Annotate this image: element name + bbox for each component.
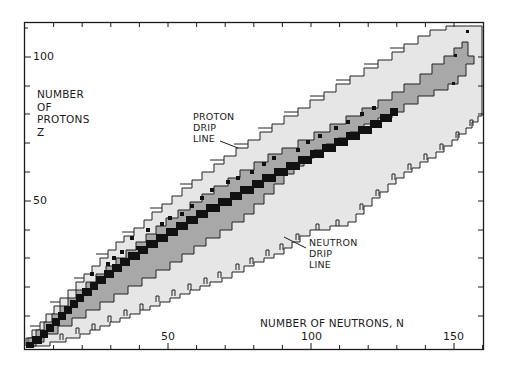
neutron-label-line: LINE bbox=[309, 259, 357, 270]
x-tick-150: 150 bbox=[443, 330, 464, 343]
x-tick-100: 100 bbox=[301, 330, 322, 343]
x-tick-50: 50 bbox=[161, 330, 175, 343]
neutron-label-line: NEUTRON bbox=[309, 237, 357, 248]
neutron-drip-line-label: NEUTRON DRIP LINE bbox=[309, 237, 357, 270]
proton-label-line: LINE bbox=[193, 133, 234, 144]
y-tick-100: 100 bbox=[33, 50, 54, 63]
y-axis-label-line: NUMBER bbox=[37, 88, 90, 101]
y-axis-label-line: Z bbox=[37, 126, 90, 139]
y-axis-label-line: PROTONS bbox=[37, 113, 90, 126]
nuclide-chart bbox=[0, 0, 506, 368]
neutron-label-line: DRIP bbox=[309, 248, 357, 259]
y-axis-label: NUMBER OF PROTONS Z bbox=[37, 88, 90, 138]
proton-label-line: DRIP bbox=[193, 122, 234, 133]
proton-label-line: PROTON bbox=[193, 111, 234, 122]
proton-drip-line-label: PROTON DRIP LINE bbox=[193, 111, 234, 144]
y-tick-50: 50 bbox=[33, 194, 47, 207]
y-axis-label-line: OF bbox=[37, 101, 90, 114]
x-axis-label: NUMBER OF NEUTRONS, N bbox=[260, 317, 404, 330]
